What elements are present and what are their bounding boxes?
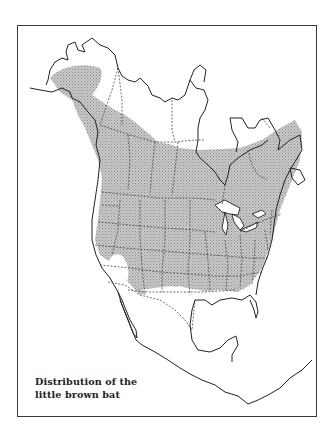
caption-line-2: little brown bat [35,389,137,402]
map-caption: Distribution of the little brown bat [35,376,137,401]
caption-line-1: Distribution of the [35,376,137,389]
north-america-map [0,0,332,439]
